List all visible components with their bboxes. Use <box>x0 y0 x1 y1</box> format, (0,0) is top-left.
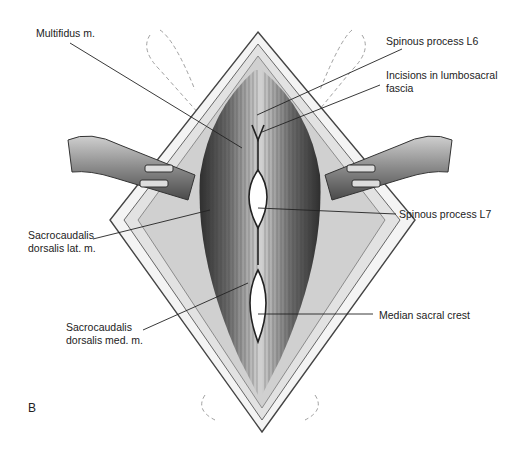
label-incisions-line1: Incisions in lumbosacral <box>386 69 497 81</box>
label-median-sacral-crest: Median sacral crest <box>379 309 470 321</box>
label-sacrocaudalis-med-line2: dorsalis med. m. <box>66 334 143 346</box>
label-multifidus: Multifidus m. <box>36 27 95 39</box>
label-sacrocaudalis-med-line1: Sacrocaudalis <box>66 321 132 333</box>
label-sacrocaudalis-lat-line2: dorsalis lat. m. <box>28 242 96 254</box>
label-sacrocaudalis-lat-line1: Sacrocaudalis <box>28 229 94 241</box>
label-spinous-process-l6: Spinous process L6 <box>386 35 478 47</box>
label-spinous-process-l7: Spinous process L7 <box>399 208 491 220</box>
label-incisions-line2: fascia <box>386 82 413 94</box>
panel-letter: B <box>28 401 36 415</box>
